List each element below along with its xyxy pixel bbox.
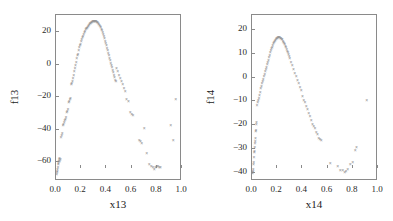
data-point [266,58,271,63]
data-point [171,138,176,143]
data-point [256,96,261,101]
data-point [80,35,85,40]
x-axis-tick-label-x13: 0.8 [150,184,161,194]
data-point [309,118,314,123]
data-point [67,99,72,104]
data-point [84,26,89,31]
x-axis-tick-x13 [131,165,132,168]
data-point [311,124,316,129]
data-point [305,107,310,112]
data-point [255,100,260,105]
data-point [267,53,272,58]
y-axis-tick-x13 [56,129,59,130]
data-point [269,46,274,51]
data-point [294,74,299,79]
data-point [255,103,260,108]
x-axis-tick-label-x14: 1.0 [371,184,382,194]
y-axis-tick-x13 [56,31,59,32]
data-point [69,81,74,86]
data-point [73,63,78,68]
data-point [295,78,300,83]
data-point [115,69,120,74]
data-point [343,169,348,174]
data-point [173,97,178,102]
data-point [258,90,263,95]
y-axis-tick-label-x13: −60 [37,155,51,165]
x-axis-tick-x14 [276,165,277,168]
data-point [77,43,82,48]
data-point [270,45,275,50]
data-point [122,86,127,91]
data-point [108,61,113,66]
data-point [60,131,65,136]
data-point [82,29,87,34]
data-point [137,138,142,143]
data-point [151,165,156,170]
data-point [290,63,295,68]
data-point [96,21,101,26]
data-point [179,68,180,73]
x-axis-tick-label-x14: 0.6 [321,184,332,194]
y-axis-label-f14: f14 [204,90,216,105]
data-point [253,139,258,144]
data-point [285,50,290,55]
data-point [289,60,294,65]
data-point [252,149,257,154]
data-point [275,35,280,40]
data-point [69,82,74,87]
data-point [71,76,76,81]
data-point [277,35,282,40]
data-point [56,167,60,172]
data-point [75,53,80,58]
y-axis-tick-x14 [252,100,255,101]
data-point [364,98,369,103]
data-point [280,39,285,44]
y-axis-tick-x14 [252,53,255,54]
data-point [272,39,277,44]
data-point [113,78,118,83]
data-point [284,47,289,52]
data-point [64,115,69,120]
data-point [59,133,64,138]
x-axis-tick-x14 [352,165,353,168]
data-point [59,135,64,140]
data-point [119,79,124,84]
data-point [253,141,258,146]
data-point [338,168,343,173]
data-point [103,41,108,46]
data-point [94,19,99,24]
data-point [68,96,73,101]
data-point [129,112,134,117]
x-axis-label-x13: x13 [110,198,127,210]
data-point [268,50,273,55]
data-point [310,122,315,127]
data-point [85,25,90,30]
data-point [62,118,67,123]
data-point [108,58,113,63]
data-point [96,22,101,27]
data-point [81,32,86,37]
x-axis-tick-label-x13: 1.0 [175,184,186,194]
data-point [64,110,69,115]
data-point [81,34,86,39]
data-point [99,28,104,33]
x-axis-tick-label-x14: 0.0 [245,184,256,194]
data-point [278,36,283,41]
y-axis-tick-label-x14: −40 [233,166,247,176]
data-point [71,73,76,78]
data-point [98,25,103,30]
data-point [260,79,265,84]
data-point [83,27,88,32]
data-point [264,65,269,70]
data-point [284,45,289,50]
data-point [316,136,321,141]
data-point [139,141,144,146]
data-point [76,48,81,53]
plot-area-f13 [56,15,180,179]
data-point [78,42,83,47]
data-point [307,114,312,119]
data-point [56,169,60,174]
data-point [306,111,311,116]
x-axis-tick-label-x13: 0.0 [49,184,60,194]
data-point [354,145,359,150]
